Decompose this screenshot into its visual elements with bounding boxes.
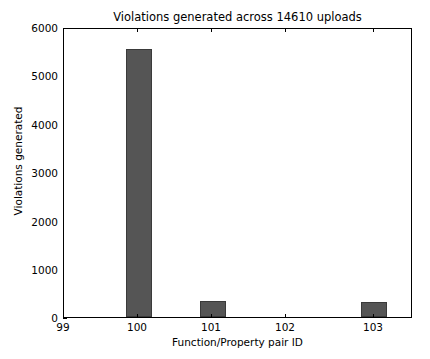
x-tick-label-102: 102: [265, 321, 305, 333]
bar-103: [361, 302, 387, 317]
y-tick-label-1000: 1000: [20, 265, 58, 275]
x-tick-mark-103: [373, 314, 374, 318]
x-tick-label-100: 100: [117, 321, 157, 333]
bar-101: [200, 301, 226, 317]
x-tick-mark-100: [137, 314, 138, 318]
y-tick-mark-0: [63, 318, 67, 319]
y-tick-label-3000: 3000: [20, 168, 58, 178]
x-tick-label-101: 101: [191, 321, 231, 333]
bar-100: [126, 49, 152, 317]
x-tick-label-99: 99: [43, 321, 83, 333]
x-tick-label-103: 103: [353, 321, 393, 333]
plot-area: [63, 28, 412, 318]
chart-figure: Violations generated across 14610 upload…: [0, 0, 430, 359]
y-tick-label-4000: 4000: [20, 120, 58, 130]
x-tick-mark-102: [285, 314, 286, 318]
x-tick-mark-top-100: [137, 28, 138, 32]
x-tick-mark-top-101: [211, 28, 212, 32]
x-tick-mark-101: [211, 314, 212, 318]
y-tick-label-2000: 2000: [20, 217, 58, 227]
x-tick-mark-99: [63, 314, 64, 318]
chart-title: Violations generated across 14610 upload…: [63, 10, 412, 24]
x-tick-mark-top-103: [373, 28, 374, 32]
x-axis-label: Function/Property pair ID: [63, 336, 412, 348]
bars-layer: [64, 29, 411, 317]
y-tick-label-6000: 6000: [20, 23, 58, 33]
y-axis-label: Violations generated: [12, 81, 24, 241]
x-tick-mark-top-102: [285, 28, 286, 32]
y-tick-label-5000: 5000: [20, 71, 58, 81]
